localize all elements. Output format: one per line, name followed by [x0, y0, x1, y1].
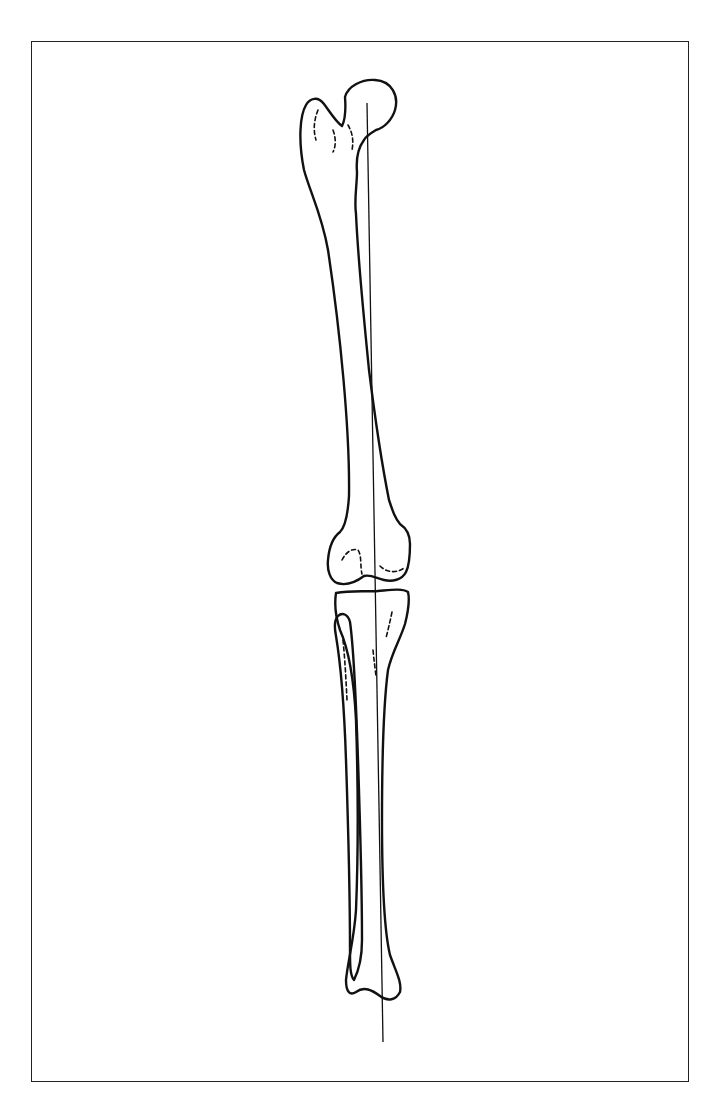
leg-bones-diagram: [0, 0, 720, 1104]
femur: [300, 80, 410, 584]
mechanical-axis-line: [367, 103, 383, 1042]
